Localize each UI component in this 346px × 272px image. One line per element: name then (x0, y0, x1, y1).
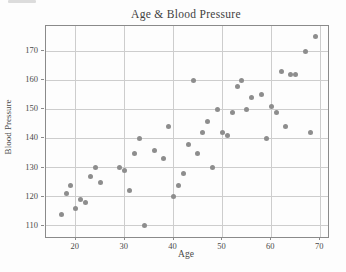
scan-artifact (8, 0, 36, 3)
gridline-vertical (271, 26, 272, 237)
data-point (88, 174, 93, 179)
data-point (269, 104, 274, 109)
y-tick-label: 120 (22, 192, 38, 201)
gridline-horizontal (46, 196, 328, 197)
data-point (152, 148, 157, 153)
data-point (230, 110, 235, 115)
data-point (235, 84, 240, 89)
x-tick-mark (75, 237, 76, 240)
y-tick-mark (41, 79, 44, 80)
x-tick-label: 60 (266, 242, 275, 251)
data-point (215, 107, 220, 112)
gridline-horizontal (46, 225, 328, 226)
x-tick-mark (221, 237, 222, 240)
data-point (308, 130, 313, 135)
gridline-horizontal (46, 138, 328, 139)
x-tick-mark (124, 237, 125, 240)
data-point (68, 183, 73, 188)
gridline-vertical (320, 26, 321, 237)
gridline-horizontal (46, 80, 328, 81)
data-point (122, 168, 127, 173)
data-point (181, 171, 186, 176)
data-point (127, 188, 132, 193)
data-point (249, 95, 254, 100)
data-point (137, 136, 142, 141)
x-tick-label: 50 (217, 242, 226, 251)
data-point (279, 69, 284, 74)
y-tick-label: 150 (22, 104, 38, 113)
x-tick-label: 20 (71, 242, 80, 251)
y-axis-label: Blood Pressure (3, 77, 13, 177)
data-point (244, 107, 249, 112)
y-tick-mark (41, 167, 44, 168)
y-tick-label: 140 (22, 133, 38, 142)
data-point (195, 151, 200, 156)
chart-title: Age & Blood Pressure (45, 8, 327, 20)
y-tick-mark (41, 137, 44, 138)
data-point (313, 34, 318, 39)
gridline-horizontal (46, 51, 328, 52)
data-point (259, 92, 264, 97)
data-point (132, 151, 137, 156)
data-point (205, 119, 210, 124)
y-tick-label: 160 (22, 75, 38, 84)
x-tick-mark (319, 237, 320, 240)
data-point (166, 124, 171, 129)
y-tick-label: 170 (22, 46, 38, 55)
data-point (83, 200, 88, 205)
data-point (73, 206, 78, 211)
y-tick-label: 130 (22, 162, 38, 171)
gridline-vertical (124, 26, 125, 237)
data-point (186, 142, 191, 147)
y-tick-mark (41, 196, 44, 197)
x-tick-mark (270, 237, 271, 240)
plot-area (45, 25, 329, 238)
y-tick-label: 110 (22, 221, 38, 230)
x-tick-mark (173, 237, 174, 240)
y-tick-mark (41, 50, 44, 51)
data-point (64, 191, 69, 196)
x-tick-label: 70 (315, 242, 324, 251)
data-point (176, 183, 181, 188)
y-tick-mark (41, 108, 44, 109)
data-point (93, 165, 98, 170)
data-point (171, 194, 176, 199)
gridline-horizontal (46, 109, 328, 110)
x-axis-label: Age (45, 249, 327, 259)
data-point (200, 130, 205, 135)
data-point (274, 110, 279, 115)
data-point (161, 156, 166, 161)
data-point (264, 136, 269, 141)
gridline-vertical (173, 26, 174, 237)
scatter-figure: Age & Blood Pressure Age Blood Pressure … (0, 0, 346, 272)
data-point (210, 165, 215, 170)
data-point (283, 124, 288, 129)
data-point (303, 49, 308, 54)
x-tick-label: 40 (168, 242, 177, 251)
data-point (191, 78, 196, 83)
data-point (142, 223, 147, 228)
data-point (225, 133, 230, 138)
data-point (293, 72, 298, 77)
data-point (239, 78, 244, 83)
gridline-horizontal (46, 167, 328, 168)
data-point (98, 180, 103, 185)
y-tick-mark (41, 225, 44, 226)
x-tick-label: 30 (119, 242, 128, 251)
data-point (59, 212, 64, 217)
